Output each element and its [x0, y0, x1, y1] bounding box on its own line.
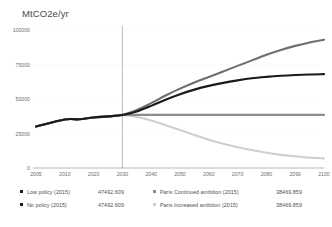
x-tick-label: 2060: [203, 171, 215, 177]
series-line: [36, 115, 324, 127]
x-tick-label: 2030: [117, 171, 129, 177]
series-line: [36, 40, 324, 127]
y-tick-label: 75000: [16, 62, 31, 68]
y-tick-labels: 1000007500050000250000: [13, 27, 30, 171]
x-tick-label: 2080: [261, 171, 273, 177]
legend-item-label: Paris Increased ambition (2015): [160, 202, 238, 208]
legend-marker-icon: [153, 190, 156, 193]
y-tick-label: 100000: [13, 27, 30, 33]
y-tick-label: 50000: [16, 96, 31, 102]
y-tick-label: 25000: [16, 131, 31, 137]
x-tick-label: 2070: [232, 171, 244, 177]
x-tick-labels: 2005201020202030204020502060207020802090…: [30, 171, 330, 177]
x-tick-label: 2020: [88, 171, 100, 177]
legend-item-value: 38469.859: [276, 202, 302, 208]
legend-item-low-policy[interactable]: Low policy (2015) 47492.609: [20, 185, 155, 198]
series-line: [36, 74, 324, 126]
legend-item-label: Low policy (2015): [27, 189, 70, 195]
legend-item-value: 47492.609: [98, 202, 124, 208]
emissions-chart: MtCO2e/yr 1000007500050000250000 2005201…: [0, 0, 332, 227]
legend-item-value: 38469.859: [276, 189, 302, 195]
legend-marker-icon: [20, 190, 23, 193]
x-tick-label: 2010: [59, 171, 71, 177]
legend-marker-icon: [153, 203, 156, 206]
legend-item-paris-increased[interactable]: Paris Increased ambition (2015) 38469.85…: [153, 198, 332, 211]
x-tick-label: 2040: [145, 171, 157, 177]
x-tick-label: 2005: [30, 171, 42, 177]
legend-item-value: 47492.609: [98, 189, 124, 195]
chart-legend: Low policy (2015) 47492.609 No policy (2…: [20, 184, 332, 220]
x-tick-label: 2100: [318, 171, 330, 177]
legend-item-label: Paris Continued ambition (2015): [160, 189, 239, 195]
series-line: [36, 115, 324, 158]
legend-item-label: No policy (2015): [27, 202, 67, 208]
legend-item-no-policy[interactable]: No policy (2015) 47492.609: [20, 198, 155, 211]
legend-marker-icon: [20, 203, 23, 206]
x-tick-label: 2090: [289, 171, 301, 177]
gridlines: [36, 30, 324, 134]
x-tick-label: 2050: [174, 171, 186, 177]
legend-item-paris-continued[interactable]: Paris Continued ambition (2015) 38469.85…: [153, 185, 332, 198]
